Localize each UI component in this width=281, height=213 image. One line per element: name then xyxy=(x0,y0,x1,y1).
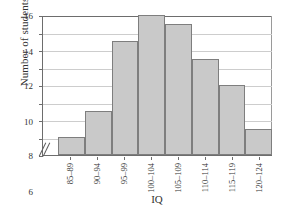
bar[interactable] xyxy=(85,111,112,155)
x-tick-slot: 85–89 xyxy=(57,157,84,191)
y-tick-label: 10 xyxy=(24,118,33,127)
bar-series xyxy=(58,16,272,155)
bar-slot xyxy=(219,16,246,155)
bar[interactable] xyxy=(165,24,192,155)
bar-slot xyxy=(245,16,272,155)
bar[interactable] xyxy=(245,129,272,155)
x-tick-slot: 90–94 xyxy=(84,157,111,191)
bar[interactable] xyxy=(138,15,165,155)
x-tick-label: 110–114 xyxy=(200,163,209,192)
x-tick-mark xyxy=(151,157,152,160)
x-tick-mark xyxy=(97,157,98,160)
bar-slot xyxy=(165,16,192,155)
x-tick-mark xyxy=(259,157,260,160)
y-tick-label: 12 xyxy=(24,82,33,91)
bar[interactable] xyxy=(219,85,246,155)
y-tick-label: 8 xyxy=(29,152,34,161)
axis-break-icon xyxy=(37,142,53,158)
x-tick-slot: 120–124 xyxy=(245,157,272,191)
y-tick-mark: 12 xyxy=(39,51,43,52)
bar-slot xyxy=(58,16,85,155)
y-tick-label: 14 xyxy=(24,48,33,57)
y-tick-mark: 10 xyxy=(39,69,43,70)
histogram-figure: Number of students 0246810121416 85–8990… xyxy=(0,0,281,213)
bar-slot xyxy=(138,16,165,155)
bar[interactable] xyxy=(192,59,219,155)
x-tick-label: 95–99 xyxy=(120,163,129,184)
x-tick-mark xyxy=(205,157,206,160)
bar[interactable] xyxy=(112,41,139,155)
y-tick-mark: 2 xyxy=(39,139,43,140)
x-tick-label: 105–109 xyxy=(173,163,182,193)
y-tick-mark: 6 xyxy=(39,104,43,105)
y-tick-mark: 8 xyxy=(39,86,43,87)
bar[interactable] xyxy=(58,137,85,155)
bar-slot xyxy=(192,16,219,155)
bar-slot xyxy=(112,16,139,155)
x-axis-title: IQ xyxy=(42,193,272,205)
x-tick-label: 85–89 xyxy=(66,163,75,184)
x-axis-ticks: 85–8990–9495–99100–104105–109110–114115–… xyxy=(57,157,272,191)
x-tick-slot: 105–109 xyxy=(165,157,192,191)
x-tick-label: 115–119 xyxy=(227,163,236,192)
x-tick-slot: 100–104 xyxy=(138,157,165,191)
x-tick-slot: 115–119 xyxy=(218,157,245,191)
x-tick-label: 120–124 xyxy=(254,163,263,193)
x-tick-label: 100–104 xyxy=(147,163,156,193)
x-tick-mark xyxy=(232,157,233,160)
x-tick-slot: 110–114 xyxy=(191,157,218,191)
y-tick-mark: 16 xyxy=(39,16,43,17)
y-tick-label: 16 xyxy=(24,12,33,21)
plot-area: 0246810121416 xyxy=(42,16,272,156)
x-tick-mark xyxy=(178,157,179,160)
x-tick-label: 90–94 xyxy=(93,163,102,184)
y-tick-mark: 14 xyxy=(39,34,43,35)
bar-slot xyxy=(85,16,112,155)
x-tick-mark xyxy=(70,157,71,160)
x-tick-mark xyxy=(124,157,125,160)
x-tick-slot: 95–99 xyxy=(111,157,138,191)
y-tick-label: 6 xyxy=(29,188,34,197)
y-tick-mark: 4 xyxy=(39,121,43,122)
